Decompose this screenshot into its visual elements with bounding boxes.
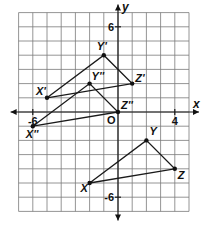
y-axis-arrow-up: [115, 5, 121, 11]
vertex-label: Y: [149, 125, 158, 137]
x-axis-label: x: [192, 97, 201, 111]
vertex-label: Z'': [120, 99, 133, 111]
y-tick-label: -6: [104, 191, 114, 203]
vertex-point: [87, 181, 91, 185]
coordinate-plane: -646-6 XYZX'Y'Z'X''Y''Z'' x y O: [0, 0, 205, 226]
origin-label: O: [107, 114, 116, 126]
vertex-label: X'': [25, 128, 39, 140]
vertex-point: [173, 167, 177, 171]
y-axis-label: y: [121, 0, 130, 14]
vertex-label: Y'': [92, 70, 105, 82]
triangles: XYZX'Y'Z'X''Y''Z'': [25, 40, 186, 194]
vertex-label: Z: [177, 169, 186, 181]
vertex-point: [130, 81, 134, 85]
vertex-point: [102, 53, 106, 57]
vertex-point: [87, 81, 91, 85]
y-tick-label: 6: [108, 21, 114, 33]
y-axis-arrow-down: [115, 214, 121, 220]
vertex-label: X': [35, 85, 46, 97]
triangle-XppYppZpp: X''Y''Z'': [25, 70, 134, 141]
vertex-label: Y': [97, 40, 107, 52]
vertex-point: [144, 138, 148, 142]
x-axis-arrow-left: [11, 109, 17, 115]
vertex-label: Z': [134, 72, 145, 84]
vertex-point: [116, 110, 120, 114]
axes: [11, 5, 199, 221]
vertex-label: X: [80, 182, 89, 194]
triangle-XYZ: XYZ: [80, 125, 186, 194]
x-tick-label: 4: [172, 115, 179, 127]
